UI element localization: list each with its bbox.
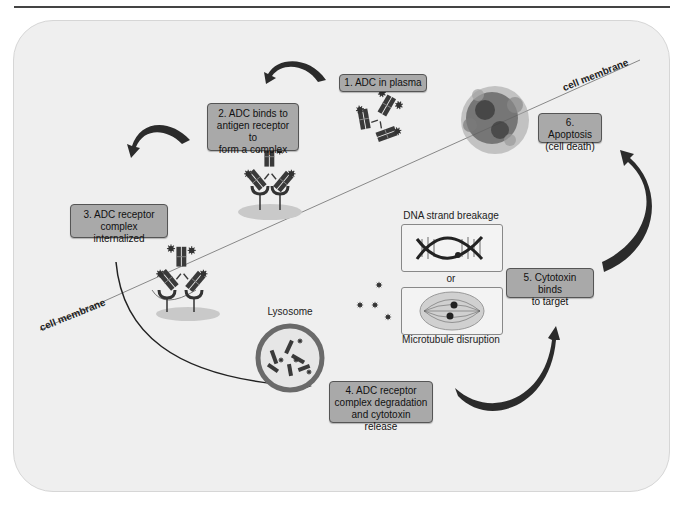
dna-helix-icon <box>402 225 502 271</box>
step2-box: 2. ADC binds to antigen receptor to form… <box>207 103 299 151</box>
step3-line1: 3. ADC receptor <box>75 209 163 221</box>
step5-box: 5. Cytotoxin binds to target <box>506 268 594 298</box>
adc-free-icon <box>347 82 415 149</box>
or-label: or <box>401 273 501 284</box>
mitotic-spindle-icon <box>402 288 502 334</box>
step2-line2: antigen receptor to <box>212 120 294 144</box>
apoptotic-cell-icon <box>461 86 529 154</box>
arrow-step2-to-3 <box>127 125 190 158</box>
step5-line1: 5. Cytotoxin binds <box>511 272 589 296</box>
step4-line3: and cytotoxin release <box>334 409 428 433</box>
microtubule-disruption-label: Microtubule disruption <box>396 334 506 345</box>
step1-label: 1. ADC in plasma <box>344 77 421 88</box>
lysosome-icon <box>258 326 322 390</box>
dna-strand-breakage-label: DNA strand breakage <box>401 210 501 221</box>
microtubule-inset <box>401 287 503 335</box>
arrow-step1-to-2 <box>264 61 326 84</box>
step4-line1: 4. ADC receptor <box>334 385 428 397</box>
arrow-step5-to-6 <box>602 150 652 272</box>
adc-internalized-icon <box>152 245 220 321</box>
step1-box: 1. ADC in plasma <box>339 74 427 92</box>
step4-line2: complex degradation <box>334 397 428 409</box>
step3-line2: complex internalized <box>75 221 163 245</box>
step6-line1: 6. Apoptosis <box>543 117 597 141</box>
step3-box: 3. ADC receptor complex internalized <box>70 204 168 238</box>
dna-inset <box>401 224 503 272</box>
step2-line1: 2. ADC binds to <box>212 108 294 120</box>
step6-box: 6. Apoptosis (cell death) <box>538 113 602 143</box>
step5-line2: to target <box>511 296 589 308</box>
free-cytotoxin-icons <box>357 282 391 320</box>
step4-box: 4. ADC receptor complex degradation and … <box>329 381 433 423</box>
step6-line2: (cell death) <box>543 141 597 153</box>
step2-line3: form a complex <box>212 144 294 156</box>
lysosome-label: Lysosome <box>259 306 321 317</box>
